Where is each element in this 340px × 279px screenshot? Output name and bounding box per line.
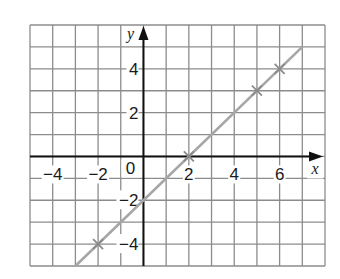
y-axis-arrow-icon: [138, 26, 148, 40]
x-tick-label: 4: [229, 165, 238, 184]
y-tick-label: 4: [129, 60, 138, 79]
x-axis-label: x: [310, 160, 318, 177]
x-tick-label: 6: [275, 165, 284, 184]
origin-label: 0: [126, 159, 135, 178]
coordinate-plane: −4−224642−2−40 xy: [0, 0, 340, 279]
grid-lines: [30, 25, 325, 266]
x-tick-label: 2: [184, 165, 193, 184]
y-axis-label: y: [125, 25, 135, 43]
x-tick-label: −2: [88, 165, 107, 184]
x-tick-label: −4: [43, 165, 62, 184]
y-tick-label: −4: [119, 235, 138, 254]
y-tick-label: 2: [129, 104, 138, 123]
